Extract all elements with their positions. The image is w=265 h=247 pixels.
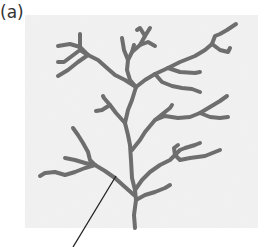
tree-diagram	[0, 0, 265, 247]
